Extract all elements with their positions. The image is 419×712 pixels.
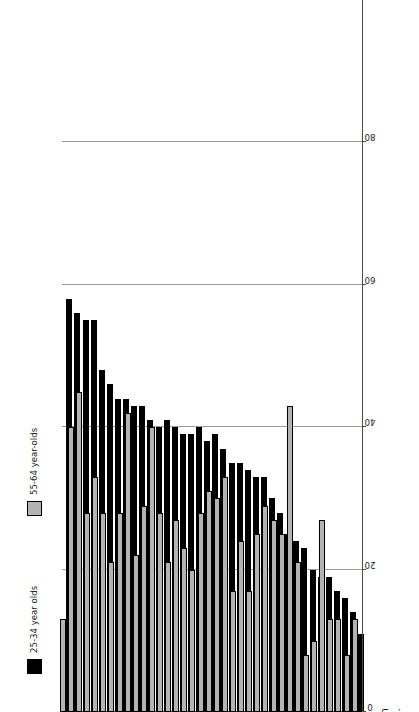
bar-group [297, 0, 305, 712]
bar-old [335, 619, 341, 712]
bar-old [351, 619, 357, 712]
bar-old [132, 555, 138, 712]
bar-old [254, 534, 260, 712]
bar-old [221, 477, 227, 712]
bar-group [337, 0, 345, 712]
bar-group [305, 0, 313, 712]
bar-old [75, 392, 81, 712]
bar-old [286, 406, 292, 712]
legend-label-young: 25-34 year olds [29, 586, 39, 653]
bar-old [157, 513, 163, 712]
bar-old [165, 562, 171, 712]
bar-old [270, 520, 276, 712]
bar-old [230, 591, 236, 712]
bar-old [140, 506, 146, 712]
axis-tick-label: 60 [364, 275, 375, 285]
bar-old [116, 513, 122, 712]
bar-old [100, 513, 106, 712]
legend-label-old: 55-64 year-olds [29, 428, 39, 495]
bar-old [213, 498, 219, 712]
bar-old [343, 655, 349, 712]
axis-line [362, 0, 363, 712]
axis-tick-label: 40 [364, 417, 375, 427]
bar-old [311, 641, 317, 712]
bar-old [181, 548, 187, 712]
bar-old [197, 513, 203, 712]
bar-old [108, 562, 114, 712]
figure-caption: Figure 3: Proportion of Population with … [377, 0, 417, 712]
bar-series-group: KoreaCanadaRussian FederationJapanNew Ze… [62, 0, 362, 712]
bar-old [303, 655, 309, 712]
bar-old [59, 619, 65, 712]
caption-line-1: Figure 3: Proportion of Population with … [378, 708, 390, 712]
bar-group [345, 0, 353, 712]
bar-old [124, 413, 130, 712]
plot-area: KoreaCanadaRussian FederationJapanNew Ze… [62, 0, 362, 712]
bar-old [84, 513, 90, 712]
bar-old [319, 520, 325, 712]
bar-old [278, 534, 284, 712]
caption-line-2: at a Glance 2010, p. 13. OECD Publishing… [390, 708, 402, 712]
bar-group [329, 0, 337, 712]
axis-tick-label: 80 [364, 132, 375, 142]
bar-old [148, 427, 154, 712]
bar-old [189, 570, 195, 712]
rotated-chart-stage: 25-34 year olds 55-64 year-olds KoreaCan… [20, 0, 400, 712]
bar-old [294, 562, 300, 712]
bar-old [67, 427, 73, 712]
bar-old [246, 591, 252, 712]
bar-old [205, 491, 211, 712]
chart-legend: 25-34 year olds 55-64 year-olds [20, 0, 54, 712]
bar-old [92, 477, 98, 712]
figure-container: 25-34 year olds 55-64 year-olds KoreaCan… [0, 0, 419, 712]
legend-swatch-young-icon [27, 659, 42, 674]
bar-old [238, 541, 244, 712]
legend-swatch-old-icon [27, 501, 42, 516]
bar-group [321, 0, 329, 712]
bar-group [353, 0, 361, 712]
bar-old [173, 520, 179, 712]
axis-tick-label: 0 [367, 702, 373, 712]
axis-tick-label: 20 [364, 560, 375, 570]
bar-old [262, 506, 268, 712]
bar-old [327, 619, 333, 712]
